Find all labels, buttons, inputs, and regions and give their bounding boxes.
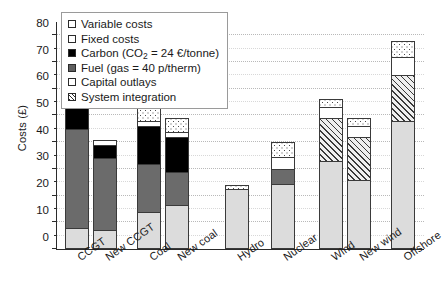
- stacked-bar[interactable]: [93, 140, 117, 249]
- y-tick-label: 10: [36, 205, 49, 217]
- bar-segment-integration: [347, 137, 371, 180]
- bar-segment-fixed: [165, 132, 189, 137]
- bar-segment-fuel: [93, 158, 117, 230]
- bar-segment-variable: [137, 107, 161, 120]
- bar-segment-capital: [165, 205, 189, 249]
- y-tick-label: 0: [43, 232, 49, 244]
- bar-segment-carbon: [165, 137, 189, 172]
- bar-segment-carbon: [65, 107, 89, 128]
- bar-segment-variable: [165, 118, 189, 131]
- y-tick: [52, 61, 57, 62]
- bar-segment-fuel: [165, 172, 189, 205]
- legend-label: Fuel (gas = 40 p/therm): [81, 62, 201, 74]
- bar-segment-fixed: [319, 107, 343, 118]
- y-tick-label: 70: [36, 45, 49, 57]
- legend-label: Carbon (CO2 = 24 €/tonne): [81, 47, 219, 59]
- y-axis-title: Costs (£): [16, 78, 28, 178]
- legend-label: Variable costs: [81, 18, 152, 30]
- y-tick: [52, 34, 57, 35]
- bar-segment-capital: [225, 189, 249, 249]
- bar-segment-variable: [391, 41, 415, 57]
- bar-segment-fixed: [137, 121, 161, 126]
- y-tick-minor: [54, 48, 57, 49]
- y-tick-label: 40: [36, 125, 49, 137]
- y-tick-minor: [54, 208, 57, 209]
- bar-segment-fuel: [137, 164, 161, 212]
- stacked-bar[interactable]: [347, 118, 371, 249]
- bar-segment-fixed: [391, 57, 415, 76]
- gridline: [57, 114, 424, 115]
- bar-segment-variable: [347, 118, 371, 126]
- stacked-bar[interactable]: [225, 185, 249, 249]
- stacked-bar[interactable]: [165, 118, 189, 249]
- legend-swatch-fuel: [68, 64, 76, 72]
- legend-item[interactable]: Capital outlays: [68, 75, 219, 90]
- legend-swatch-carbon: [68, 49, 76, 57]
- y-tick: [52, 168, 57, 169]
- legend-label: Fixed costs: [81, 33, 139, 45]
- y-tick: [52, 248, 57, 249]
- bar-segment-fixed: [347, 126, 371, 137]
- bar-segment-integration: [391, 75, 415, 120]
- y-tick-label: 20: [36, 178, 49, 190]
- y-tick-label: 50: [36, 98, 49, 110]
- y-tick-label: 80: [36, 18, 49, 30]
- bar-segment-variable: [319, 99, 343, 107]
- chart-legend: Variable costsFixed costsCarbon (CO2 = 2…: [61, 12, 228, 109]
- y-tick: [52, 221, 57, 222]
- y-tick-minor: [54, 128, 57, 129]
- y-tick-label: 30: [36, 152, 49, 164]
- y-tick: [52, 88, 57, 89]
- stacked-bar[interactable]: [391, 41, 415, 249]
- legend-item[interactable]: Fixed costs: [68, 32, 219, 47]
- bar-segment-fuel: [65, 129, 89, 228]
- bar-segment-capital: [319, 161, 343, 249]
- y-tick: [52, 114, 57, 115]
- stacked-bar[interactable]: [319, 99, 343, 249]
- y-tick: [52, 195, 57, 196]
- legend-item[interactable]: Fuel (gas = 40 p/therm): [68, 61, 219, 76]
- bar-segment-carbon: [93, 145, 117, 158]
- legend-swatch-fixed: [68, 35, 76, 43]
- stacked-bar[interactable]: [271, 142, 295, 249]
- legend-label: System integration: [81, 91, 176, 103]
- y-tick-minor: [54, 235, 57, 236]
- y-tick-minor: [54, 101, 57, 102]
- legend-label: Capital outlays: [81, 76, 156, 88]
- legend-item[interactable]: Variable costs: [68, 17, 219, 32]
- y-tick-label: 60: [36, 72, 49, 84]
- legend-swatch-capital: [68, 78, 76, 86]
- legend-swatch-variable: [68, 20, 76, 28]
- y-tick-minor: [54, 181, 57, 182]
- stacked-bar[interactable]: [65, 102, 89, 249]
- y-tick-minor: [54, 155, 57, 156]
- y-tick-minor: [54, 74, 57, 75]
- legend-swatch-integration: [68, 93, 76, 101]
- bar-segment-variable: [225, 185, 249, 189]
- legend-item[interactable]: Carbon (CO2 = 24 €/tonne): [68, 46, 219, 61]
- legend-item[interactable]: System integration: [68, 90, 219, 105]
- bar-segment-variable: [271, 142, 295, 157]
- bar-segment-fixed: [271, 157, 295, 169]
- bar-segment-capital: [271, 184, 295, 249]
- bar-segment-integration: [319, 118, 343, 161]
- bar-segment-fixed: [93, 140, 117, 145]
- bar-segment-carbon: [137, 126, 161, 163]
- y-tick: [52, 141, 57, 142]
- bar-segment-fuel: [271, 169, 295, 184]
